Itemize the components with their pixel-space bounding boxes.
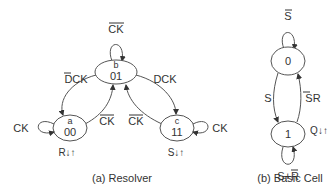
resolver-diagram: CK b 01 DCK DCK CK CK a 00 CK R↓↑ c 11 [13, 23, 228, 184]
state-1-output: Q↓↑ [310, 125, 328, 136]
state-c-output: S↓↑ [168, 147, 185, 158]
edge-b-c-label: DCK [153, 73, 177, 85]
state-b-name: b [113, 60, 118, 70]
self-loop-c-label: CK [212, 122, 228, 134]
basic-cell-diagram: S 0 S SR 1 Q↓↑ S+R (b) Basic Cell [257, 10, 328, 184]
self-loop-1 [282, 147, 295, 164]
self-loop-c [193, 122, 208, 133]
state-diagram: CK b 01 DCK DCK CK CK a 00 CK R↓↑ c 11 [0, 0, 334, 195]
self-loop-a-label: CK [13, 122, 29, 134]
self-loop-b-label: CK [108, 23, 124, 35]
edge-1-0-label: SR [305, 92, 320, 104]
edge-1-to-0 [297, 74, 301, 122]
edge-0-1-label: S [264, 92, 271, 104]
edge-c-b-label: CK [128, 115, 144, 127]
state-a-output: R↓↑ [58, 147, 75, 158]
state-c-name: c [175, 116, 180, 126]
edge-0-to-1 [274, 73, 279, 122]
edge-a-b-label: CK [99, 115, 115, 127]
caption-resolver: (a) Resolver [92, 172, 152, 184]
state-c-code: 11 [171, 126, 182, 138]
caption-basic-cell: (b) Basic Cell [257, 172, 322, 184]
state-0-code: 0 [285, 55, 291, 67]
state-1-code: 1 [285, 128, 291, 140]
state-b-code: 01 [110, 70, 122, 82]
self-loop-a [38, 122, 54, 133]
state-a-name: a [67, 116, 72, 126]
edge-b-a-label: DCK [64, 73, 88, 85]
state-a-code: 00 [64, 126, 76, 138]
self-loop-b [110, 44, 122, 61]
self-loop-0-label: S [284, 10, 291, 22]
